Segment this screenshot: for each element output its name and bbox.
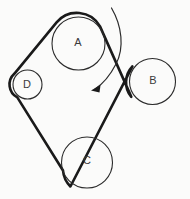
pulley-b-label: B [149,74,156,86]
belt-drive-diagram: A B C D [0,0,190,199]
rotation-arrow-head-icon [91,85,101,93]
pulley-c-label: C [83,154,91,166]
pulley-a-label: A [74,36,82,48]
rotation-arrow-arc [95,8,121,89]
diagram-canvas: A B C D [0,0,190,199]
pulley-d-label: D [23,78,31,90]
belt-crossed-path [10,13,133,187]
